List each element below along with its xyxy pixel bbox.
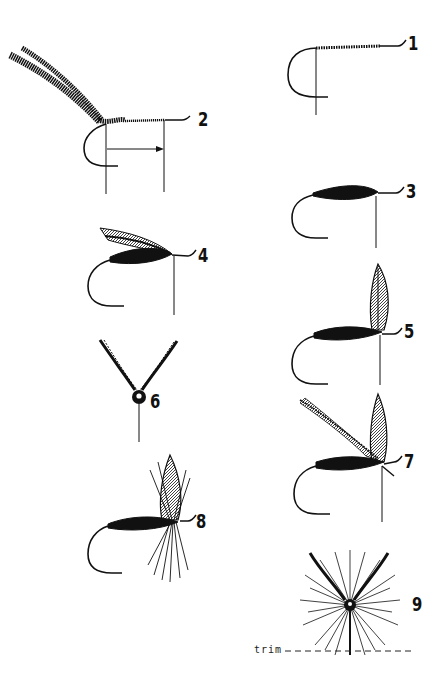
step-5-figure [292, 264, 402, 385]
step-label-3: 3 [406, 182, 416, 201]
step-label-9: 9 [412, 595, 422, 614]
step-2-figure [10, 48, 190, 194]
step-8-figure [88, 455, 196, 582]
step-label-8: 8 [196, 512, 206, 531]
step-label-6: 6 [150, 392, 160, 411]
step-7-figure [294, 394, 402, 522]
step-1-figure [288, 40, 406, 115]
fly-tying-diagram: 1 2 3 4 5 6 7 8 9 trim [0, 0, 439, 686]
diagram-canvas [0, 0, 439, 686]
step-label-5: 5 [404, 322, 414, 341]
step-label-7: 7 [404, 452, 414, 471]
step-label-2: 2 [198, 110, 208, 129]
step-3-figure [292, 186, 404, 248]
trim-label: trim [254, 644, 282, 655]
step-label-1: 1 [408, 34, 418, 53]
step-9-figure [285, 550, 412, 655]
step-6-figure [100, 340, 177, 442]
step-label-4: 4 [198, 246, 208, 265]
step-4-figure [88, 228, 196, 315]
